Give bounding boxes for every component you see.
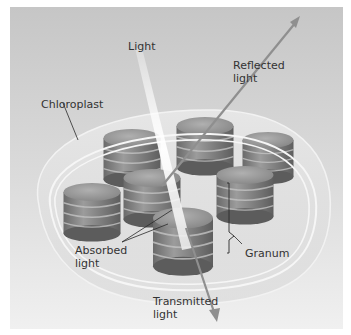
- label-absorbed-light: Absorbed light: [75, 244, 127, 270]
- chloroplast-illustration: [10, 7, 343, 329]
- diagram-panel: Light Reflected light Chloroplast Absorb…: [10, 7, 343, 329]
- label-light: Light: [128, 40, 155, 53]
- label-reflected-light: Reflected light: [233, 59, 285, 85]
- label-transmitted-light: Transmitted light: [153, 295, 218, 321]
- label-chloroplast: Chloroplast: [41, 98, 103, 111]
- label-granum: Granum: [245, 247, 289, 260]
